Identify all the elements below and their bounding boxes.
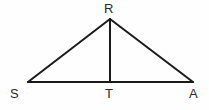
segment-SR [28,19,110,82]
vertex-label-S: S [10,87,19,100]
segment-RA [110,19,193,82]
vertex-label-R: R [104,2,113,15]
geometry-figure-canvas: R S T A [0,0,209,110]
vertex-label-A: A [189,87,198,100]
vertex-label-T: T [105,87,113,100]
